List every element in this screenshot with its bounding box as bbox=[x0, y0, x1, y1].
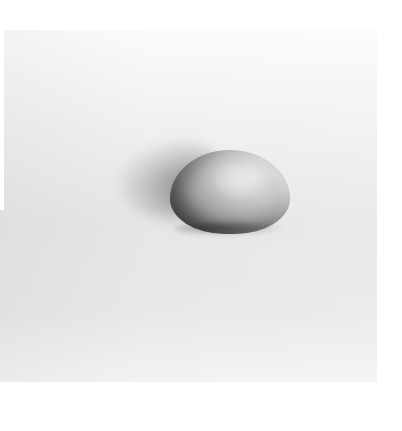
dome-base-shadow bbox=[175, 222, 285, 236]
photo-border-strip bbox=[0, 30, 4, 210]
dome-highlight bbox=[210, 160, 270, 200]
